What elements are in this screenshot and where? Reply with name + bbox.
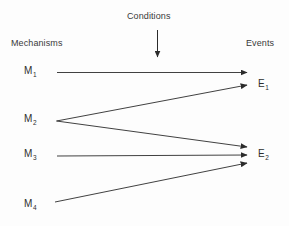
diagram-arrows-layer xyxy=(0,0,289,226)
arrow-m3-to-e2 xyxy=(57,155,247,156)
node-m2: M2 xyxy=(24,114,36,124)
node-m3-sub: 3 xyxy=(33,154,37,161)
node-e1-sub: 1 xyxy=(265,84,269,91)
node-e2: E2 xyxy=(258,149,269,159)
node-m4-sub: 4 xyxy=(33,204,37,211)
node-m2-sub: 2 xyxy=(33,119,37,126)
node-m3-base: M xyxy=(24,148,32,159)
arrow-m2-to-e1 xyxy=(57,85,248,121)
node-e2-sub: 2 xyxy=(265,154,269,161)
node-m1: M1 xyxy=(24,66,36,76)
mechanisms-label: Mechanisms xyxy=(11,39,63,48)
conditions-label: Conditions xyxy=(127,12,171,21)
node-m2-base: M xyxy=(24,113,32,124)
node-e2-base: E xyxy=(258,148,265,159)
node-m4-base: M xyxy=(24,198,32,209)
node-m1-sub: 1 xyxy=(33,71,37,78)
diagram-canvas: Conditions Mechanisms Events M1 M2 M3 M4… xyxy=(0,0,289,226)
node-e1: E1 xyxy=(258,79,269,89)
node-e1-base: E xyxy=(258,78,265,89)
arrow-m4-to-e2 xyxy=(55,163,247,202)
events-label: Events xyxy=(246,39,274,48)
arrow-m2-to-e2 xyxy=(57,121,248,147)
node-m3: M3 xyxy=(24,149,36,159)
node-m4: M4 xyxy=(24,199,36,209)
node-m1-base: M xyxy=(24,65,32,76)
